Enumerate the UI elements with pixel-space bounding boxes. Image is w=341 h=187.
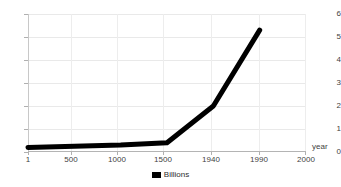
series-billions [24,10,310,156]
y-tick-label: 2 [321,102,341,110]
plot-area [28,14,306,152]
chart-legend: Billions [0,170,341,179]
x-axis-title: year [312,142,328,151]
x-tick-label: 1000 [108,155,126,164]
x-tick-label: 1940 [202,155,220,164]
x-tick-label: 500 [64,155,77,164]
y-tick-label: 4 [321,56,341,64]
x-tick-label: 2000 [297,155,315,164]
y-tick-label: 5 [321,33,341,41]
chart-container: 6 5 4 3 2 1 0 [0,0,341,187]
legend-swatch-icon [152,172,161,178]
y-tick-label: 3 [321,79,341,87]
y-tick-label: 6 [321,10,341,18]
x-tick-label: 1 [26,155,30,164]
legend-label: Billions [164,170,189,179]
x-tick-label: 1500 [154,155,172,164]
y-tick-label: 1 [321,125,341,133]
x-tick-label: 1990 [250,155,268,164]
